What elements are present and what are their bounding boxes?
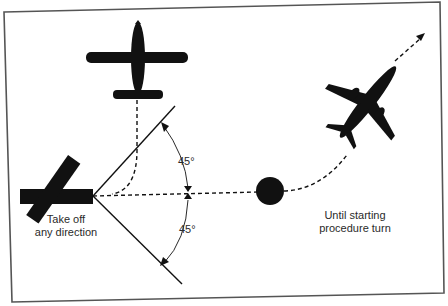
lower-angle-label: 45° — [179, 223, 196, 235]
procedure-label-line2: procedure turn — [319, 222, 391, 234]
takeoff-label-line1: Take off — [47, 213, 86, 225]
takeoff-label-line2: any direction — [35, 226, 97, 238]
navigation-fix-dot — [256, 177, 284, 205]
procedure-label-line1: Until starting — [324, 209, 385, 221]
upper-angle-label: 45° — [178, 155, 195, 167]
diagram-frame — [4, 2, 444, 302]
departure-diagram: 45° 45° Take off any direction Until sta… — [0, 0, 448, 306]
